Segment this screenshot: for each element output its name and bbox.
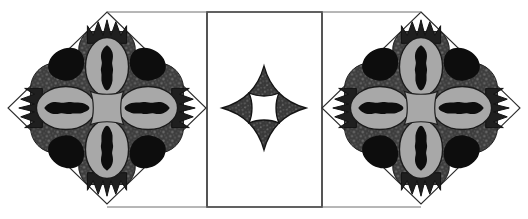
tile-band-figure — [0, 0, 528, 219]
panel-center-outline — [207, 12, 322, 207]
panel-center[interactable] — [207, 12, 322, 207]
figure-root — [0, 0, 528, 219]
